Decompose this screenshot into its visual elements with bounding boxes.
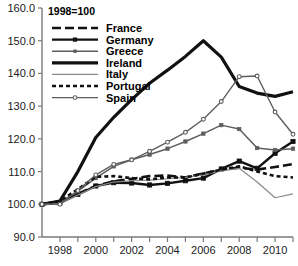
y-axis-tick-label: 150.0: [7, 35, 35, 47]
legend-item-italy[interactable]: Italy: [52, 68, 129, 80]
legend-marker: [73, 38, 77, 42]
series-line-italy: [42, 168, 293, 204]
series-marker: [201, 176, 205, 180]
legend-item-ireland[interactable]: Ireland: [52, 57, 142, 69]
chart-annotation: 1998=100: [48, 5, 95, 17]
series-marker: [166, 140, 170, 144]
series-marker: [184, 130, 188, 134]
series-marker: [76, 189, 80, 193]
series-marker: [291, 132, 295, 136]
series-marker: [255, 146, 258, 149]
series-marker: [147, 183, 151, 187]
series-marker: [220, 123, 223, 126]
series-marker: [184, 140, 187, 143]
series-marker: [237, 159, 241, 163]
chart-canvas: 90.0100.0110.0120.0130.0140.0150.0160.01…: [0, 0, 298, 266]
legend-label-spain: Spain: [106, 92, 136, 104]
series-marker: [165, 181, 169, 185]
x-axis-tick-label: 2000: [84, 244, 108, 256]
x-axis-tick-label: 2008: [227, 244, 251, 256]
series-ireland: [42, 41, 293, 205]
legend-item-spain[interactable]: Spain: [52, 92, 136, 104]
legend-label-france: France: [106, 22, 142, 34]
series-marker: [237, 75, 241, 79]
series-marker: [273, 110, 277, 114]
legend-marker: [73, 96, 77, 100]
x-axis-tick-label: 2006: [191, 244, 215, 256]
y-axis-tick-label: 160.0: [7, 2, 35, 14]
series-marker: [238, 127, 241, 130]
series-marker: [219, 100, 223, 104]
legend-label-germany: Germany: [106, 34, 155, 46]
series-marker: [130, 158, 134, 162]
series-marker: [112, 162, 116, 166]
series-marker: [255, 74, 259, 78]
line-chart: 90.0100.0110.0120.0130.0140.0150.0160.01…: [0, 0, 298, 266]
series-marker: [130, 181, 134, 185]
series-marker: [201, 117, 205, 121]
legend-label-portugal: Portugal: [106, 80, 151, 92]
x-axis-tick-label: 2010: [263, 244, 287, 256]
y-axis-tick-label: 120.0: [7, 133, 35, 145]
series-marker: [94, 173, 98, 177]
legend-item-greece[interactable]: Greece: [52, 45, 143, 57]
x-axis-tick-label: 2002: [119, 244, 143, 256]
legend-item-france[interactable]: France: [52, 22, 142, 34]
series-italy: [42, 168, 293, 204]
series-marker: [58, 202, 62, 206]
legend-item-germany[interactable]: Germany: [52, 34, 155, 46]
series-marker: [291, 139, 295, 143]
legend-label-italy: Italy: [106, 68, 129, 80]
chart-legend: FranceGermanyGreeceIrelandItalyPortugalS…: [52, 22, 155, 104]
series-line-ireland: [42, 41, 293, 205]
y-axis-tick-label: 90.0: [14, 231, 35, 243]
x-axis-tick-label: 2004: [155, 244, 179, 256]
series-marker: [148, 149, 152, 153]
y-axis-tick-label: 130.0: [7, 100, 35, 112]
x-axis-tick-label: 1998: [48, 244, 72, 256]
series-marker: [40, 202, 44, 206]
legend-label-ireland: Ireland: [106, 57, 142, 69]
series-marker: [202, 132, 205, 135]
y-axis-tick-label: 110.0: [8, 166, 35, 178]
y-axis-tick-label: 140.0: [7, 67, 35, 79]
legend-item-portugal[interactable]: Portugal: [52, 80, 151, 92]
series-marker: [273, 148, 276, 151]
series-marker: [255, 166, 259, 170]
legend-label-greece: Greece: [106, 45, 143, 57]
legend-marker: [73, 50, 76, 53]
series-marker: [291, 147, 294, 150]
series-marker: [166, 147, 169, 150]
y-axis-tick-label: 100.0: [7, 198, 35, 210]
series-marker: [183, 179, 187, 183]
